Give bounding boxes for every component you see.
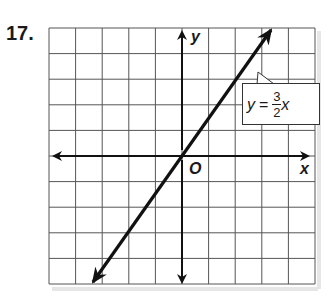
equation: y = 3 2 x bbox=[247, 90, 289, 119]
y-axis-label: y bbox=[191, 28, 200, 46]
coordinate-graph bbox=[0, 0, 329, 298]
eq-equals: = bbox=[259, 96, 268, 114]
eq-lhs: y bbox=[247, 96, 255, 114]
equation-callout: y = 3 2 x bbox=[242, 83, 320, 125]
numerator: 3 bbox=[273, 90, 280, 103]
denominator: 2 bbox=[273, 106, 280, 119]
origin-label: O bbox=[189, 160, 201, 178]
fraction: 3 2 bbox=[272, 90, 281, 119]
eq-rhs-var: x bbox=[281, 96, 289, 114]
x-axis-label: x bbox=[300, 160, 309, 178]
